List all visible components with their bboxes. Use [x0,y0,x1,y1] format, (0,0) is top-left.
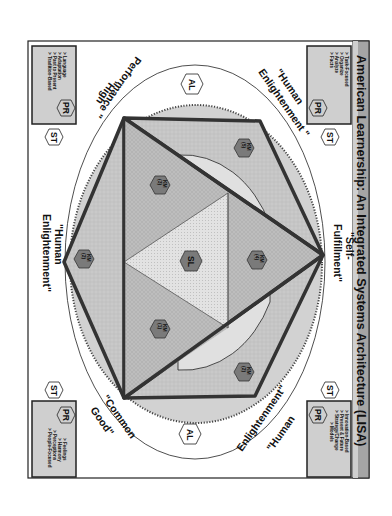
svg-text:PR: PR [61,409,71,421]
pr-hex-br: PR [309,407,327,423]
svg-text:Fulfillment": Fulfillment" [332,224,344,282]
st-hex-bl: ST [45,382,63,398]
sl-hex: SL [180,251,202,271]
lisa-architecture: American Learnership: An Integrated Syst… [0,0,392,516]
svg-text:AL: AL [187,79,197,90]
al-hex-bottom: AL [179,424,201,444]
corner-box-bottom-left: > Feelings > Harmony > Perceptions > Peo… [32,401,76,477]
svg-text:"Human: "Human [53,224,65,265]
svg-text:KM: KM [259,255,265,263]
svg-text:KM: KM [162,180,168,188]
svg-text:PR: PR [313,409,323,421]
st-hex-tr: ST [321,129,339,145]
svg-text:AL: AL [185,429,195,440]
svg-text:KM: KM [246,367,252,375]
st-hex-br: ST [321,382,339,398]
svg-text:ST: ST [49,132,59,144]
svg-text:ST: ST [325,385,335,397]
al-hex-top: AL [181,74,203,94]
svg-text:> People-Focused: > People-Focused [47,428,52,468]
svg-text:> Models: > Models [329,422,334,442]
svg-text:Enlightenment": Enlightenment" [41,214,53,292]
svg-text:"Self-: "Self- [344,232,356,260]
svg-text:PR: PR [61,102,71,114]
svg-text:> Facts: > Facts [329,52,334,68]
pr-hex-tl: PR [57,100,75,116]
corner-box-bottom-right: > Innovation-Based > Present & Future > … [307,401,351,477]
svg-text:KM: KM [162,324,168,332]
corner-box-top-right: > Task-Focused > Organize > Analyze > Fa… [307,46,351,124]
pr-hex-tr: PR [309,100,327,116]
svg-text:KM: KM [246,143,252,151]
pr-hex-bl: PR [57,407,75,423]
svg-text:ST: ST [49,385,59,397]
corner-box-top-left: > Language > Adaptation > Past to Presen… [32,46,76,124]
svg-text:> Tradition-Based: > Tradition-Based [47,52,52,91]
st-hex-tl: ST [45,129,63,145]
svg-text:SL: SL [186,256,196,267]
svg-text:KM: KM [86,254,92,262]
svg-text:PR: PR [313,102,323,114]
svg-text:ST: ST [325,132,335,144]
